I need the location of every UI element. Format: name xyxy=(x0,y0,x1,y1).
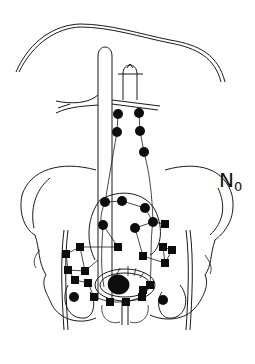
pelvic-lymph-node-diagram: N0 xyxy=(0,0,255,364)
anatomy-drawing xyxy=(0,0,255,364)
vena-cava xyxy=(112,64,160,110)
nodal-stage-label: N0 xyxy=(219,170,242,193)
abdominal-outline xyxy=(16,24,225,82)
tumor-mass xyxy=(108,275,130,295)
renal-vessel xyxy=(56,95,98,113)
stage-subscript: 0 xyxy=(234,179,242,194)
stage-letter: N xyxy=(219,168,234,192)
